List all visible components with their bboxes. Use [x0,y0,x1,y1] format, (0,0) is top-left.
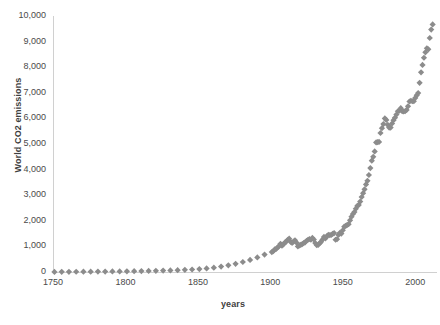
data-point [225,262,231,268]
data-point [138,268,144,274]
data-point [95,268,101,274]
data-point-markers [51,21,435,275]
data-point [419,62,425,68]
data-point [109,268,115,274]
data-point [428,26,434,32]
data-point [131,268,137,274]
data-point [204,265,210,271]
data-point [417,80,423,86]
data-point [73,269,79,275]
data-point [418,69,424,75]
co2-emissions-scatter-chart: World CO2 emissions years 01,0002,0003,0… [0,0,440,325]
data-point [88,269,94,275]
data-point [240,259,246,265]
data-point [124,268,130,274]
data-point [102,268,108,274]
data-point [232,261,238,267]
plot-area [0,0,440,325]
data-point [261,251,267,257]
data-point [218,264,224,270]
data-point [421,55,427,61]
data-point [254,254,260,260]
data-point [146,268,152,274]
data-point [247,257,253,263]
data-point [189,266,195,272]
data-point [196,266,202,272]
data-point [366,172,372,178]
data-point [367,165,373,171]
data-point [80,269,86,275]
bottom-caption [0,317,440,325]
data-point [427,35,433,41]
data-point [51,269,57,275]
data-point [430,21,436,27]
data-point [377,130,383,136]
data-point [117,268,123,274]
data-point [372,148,378,154]
data-point [66,269,72,275]
data-point [211,265,217,271]
data-point [59,269,65,275]
